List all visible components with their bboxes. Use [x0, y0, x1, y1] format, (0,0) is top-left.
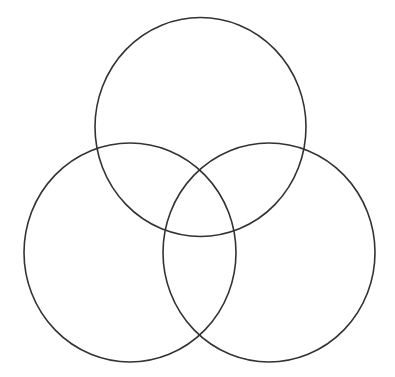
background: [0, 0, 395, 377]
venn-diagram: [0, 0, 395, 377]
